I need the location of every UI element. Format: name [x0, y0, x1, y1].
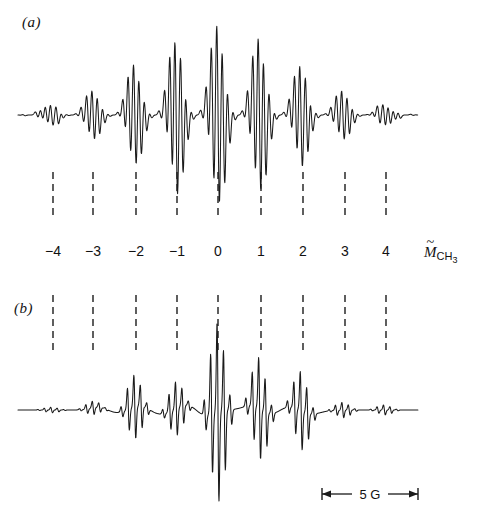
spectra-canvas: [0, 0, 480, 519]
axis-tick-label: 2: [299, 243, 307, 259]
axis-tick-label: −2: [128, 243, 144, 259]
axis-tick-label: −4: [45, 243, 61, 259]
spectrum-b-trace: [18, 324, 418, 501]
axis-tick-label: 0: [214, 243, 222, 259]
axis-tick-label: −3: [85, 243, 101, 259]
panel-label-b: (b): [14, 300, 33, 317]
m-symbol: ~M: [424, 244, 437, 261]
spectrum-path: [18, 324, 418, 501]
esr-spectra-figure: (a) (b) −4−3−2−101234 ~MCH3 5 G: [0, 0, 480, 519]
panel-label-a: (a): [22, 14, 41, 31]
scale-bar-arrow-left: [322, 490, 331, 497]
axis-tick-label: 1: [257, 243, 265, 259]
axis-tick-label: −1: [169, 243, 185, 259]
subscript-ch-text: CH: [437, 250, 453, 262]
axis-tick-label: 4: [382, 243, 390, 259]
subscript-ch: CH3: [437, 250, 458, 262]
axis-tick-label: 3: [341, 243, 349, 259]
tilde-accent: ~: [426, 235, 434, 249]
scale-bar-arrow-right: [409, 490, 418, 497]
scale-bar-label: 5 G: [357, 487, 384, 502]
stick-diagram-lower: [53, 295, 386, 350]
subscript-3: 3: [452, 254, 457, 264]
axis-title-mch3: ~MCH3: [424, 244, 457, 264]
